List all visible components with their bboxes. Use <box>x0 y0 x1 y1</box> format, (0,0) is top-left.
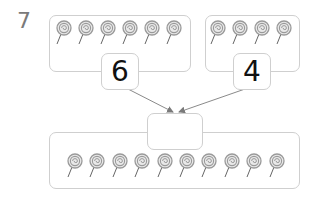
lollipop-icon <box>156 153 174 179</box>
lollipop-icon <box>165 20 183 46</box>
lollipop-icon <box>178 153 196 179</box>
lollipop-icon <box>77 20 95 46</box>
right-count-box: 4 <box>233 53 271 90</box>
lollipop-icon <box>55 20 73 46</box>
lollipop-icon <box>99 20 117 46</box>
lollipop-icon <box>275 20 293 46</box>
lollipop-icon <box>133 153 151 179</box>
left-arrow <box>128 89 173 112</box>
lollipop-icon <box>253 20 271 46</box>
lollipop-icon <box>111 153 129 179</box>
left-count-box: 6 <box>101 53 139 90</box>
lollipop-icon <box>121 20 139 46</box>
lollipop-icon <box>88 153 106 179</box>
right-arrow <box>179 89 245 112</box>
lollipop-icon <box>209 20 227 46</box>
lollipop-icon <box>200 153 218 179</box>
lollipop-icon <box>268 153 286 179</box>
lollipop-icon <box>231 20 249 46</box>
answer-box[interactable] <box>147 113 203 150</box>
lollipop-icon <box>223 153 241 179</box>
lollipop-icon <box>143 20 161 46</box>
lollipop-icon <box>66 153 84 179</box>
lollipop-icon <box>245 153 263 179</box>
